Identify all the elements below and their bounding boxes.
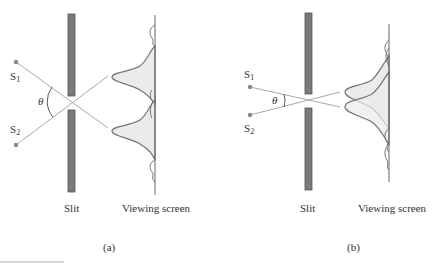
ray-s1-a [16, 62, 108, 128]
angle-arc-a [47, 87, 53, 117]
source1-label-b: S1 [244, 68, 254, 82]
screen-label-b: Viewing screen [358, 202, 427, 214]
slit-barrier-top-b [305, 13, 312, 94]
source2-label-b: S2 [244, 122, 254, 136]
angle-label-b: θ [272, 94, 278, 106]
angle-arc-b [284, 94, 285, 107]
source-s1-dot-b [248, 85, 252, 89]
caption-a: (a) [103, 241, 116, 254]
source2-label-a: S2 [10, 123, 20, 137]
slit-barrier-top-a [68, 14, 75, 96]
diffraction-pattern-s1-a [112, 100, 155, 160]
source-s2-dot-b [248, 113, 252, 117]
angle-label-a: θ [38, 95, 44, 107]
source-s1-dot-a [14, 60, 18, 64]
diffraction-figure: S1 S2 θ Slit Viewing screen (a) S1 S2 θ … [0, 0, 440, 264]
slit-label-a: Slit [64, 202, 79, 214]
source-s2-dot-a [14, 143, 18, 147]
ray-s2-a [16, 76, 108, 145]
panel-a: S1 S2 θ Slit Viewing screen (a) [10, 14, 191, 254]
slit-barrier-bottom-b [305, 108, 312, 190]
source1-label-a: S1 [10, 70, 20, 84]
caption-b: (b) [347, 241, 360, 254]
slit-barrier-bottom-a [68, 110, 75, 192]
figure-svg: S1 S2 θ Slit Viewing screen (a) S1 S2 θ … [0, 0, 440, 264]
screen-label-a: Viewing screen [122, 202, 191, 214]
diffraction-pattern-s2-a [112, 46, 155, 104]
panel-b: S1 S2 θ Slit Viewing screen (b) [244, 13, 427, 254]
slit-label-b: Slit [300, 202, 315, 214]
